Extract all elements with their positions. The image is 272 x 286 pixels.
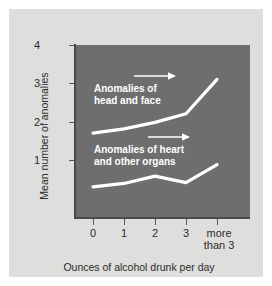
figure-card-inner: Mean number of anomalies 4 3 2 1 — [12, 12, 260, 274]
figure: Mean number of anomalies 4 3 2 1 — [0, 0, 272, 286]
annotation-head-and-face-line1: Anomalies of — [94, 83, 157, 94]
x-axis-line — [74, 217, 250, 219]
x-tick-label-0-line1: 0 — [90, 227, 96, 239]
x-tick-mark-3 — [186, 219, 187, 225]
annotation-arrow-heart-and-other-organs — [148, 133, 190, 141]
x-tick-mark-0 — [93, 219, 94, 225]
x-tick-label-more-than-3-line1: more — [206, 227, 231, 239]
x-tick-label-more-than-3: more than 3 — [196, 227, 242, 251]
x-tick-mark-4 — [217, 219, 218, 225]
annotation-arrow-head-and-face — [134, 72, 176, 80]
annotation-head-and-face: Anomalies of head and face — [94, 83, 161, 107]
x-tick-mark-1 — [124, 219, 125, 225]
y-tick-label-1: 1 — [18, 155, 40, 166]
figure-card: Mean number of anomalies 4 3 2 1 — [9, 9, 263, 277]
annotation-heart-and-other-organs-line1: Anomalies of heart — [94, 144, 184, 155]
annotation-heart-and-other-organs: Anomalies of heart and other organs — [94, 144, 184, 168]
x-tick-mark-2 — [155, 219, 156, 225]
annotation-head-and-face-line2: head and face — [94, 95, 161, 106]
y-tick-label-4: 4 — [18, 40, 40, 51]
y-tick-label-2: 2 — [18, 117, 40, 128]
plot-svg — [76, 45, 250, 217]
x-tick-label-2-line1: 2 — [152, 227, 158, 239]
x-tick-label-more-than-3-line2: than 3 — [196, 239, 242, 251]
y-tick-label-3: 3 — [18, 78, 40, 89]
x-tick-label-1-line1: 1 — [121, 227, 127, 239]
x-axis-title: Ounces of alcohol drunk per day — [12, 261, 266, 273]
x-tick-label-3-line1: 3 — [183, 227, 189, 239]
annotation-heart-and-other-organs-line2: and other organs — [94, 156, 176, 167]
plot-area: Anomalies of head and face Anomalies of … — [76, 45, 250, 217]
